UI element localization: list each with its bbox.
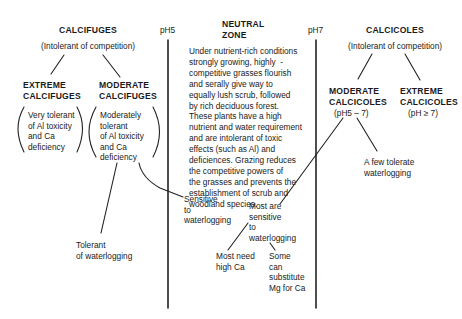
branch-to-sensitive-waterlogging (139, 163, 183, 197)
moderate-calcifuges-right-paren (153, 107, 160, 157)
most-need-high-ca-text: Most need high Ca (216, 251, 255, 272)
branch-to-moderate-calcicoles (358, 54, 372, 79)
neutral-zone-description: Under nutrient-rich conditions strongly … (189, 46, 302, 210)
tolerant-of-waterlogging-text: Tolerant of waterlogging (76, 240, 132, 261)
extreme-calcicoles-range: (pH ≥ 7) (408, 108, 438, 119)
branch-to-most-need-high-ca (228, 223, 248, 250)
calcicoles-title: CALCICOLES (345, 25, 445, 36)
few-tolerate-waterlogging-text: A few tolerate waterlogging (364, 157, 414, 178)
moderate-calcifuges-left-paren (89, 107, 96, 157)
ph7-label: pH7 (308, 25, 323, 36)
branch-to-moderate-calcifuges (103, 55, 120, 77)
most-sensitive-waterlogging-text: Most are sensitive to waterlogging (249, 201, 296, 243)
moderate-calcicoles-title-2: CALCICOLES (329, 97, 387, 108)
branch-to-few-tolerate (357, 118, 377, 151)
calcifuges-title: CALCIFUGES (38, 25, 138, 36)
extreme-calcifuges-description: Very tolerant of Al toxicity and Ca defi… (28, 110, 75, 152)
moderate-calcicoles-title-1: MODERATE (329, 86, 379, 97)
moderate-calcifuges-title-2: CALCIFUGES (99, 91, 157, 102)
extreme-calcicoles-title-2: CALCICOLES (400, 97, 458, 108)
extreme-calcifuges-title-2: CALCIFUGES (23, 91, 81, 102)
branch-to-extreme-calcifuges (51, 55, 64, 74)
calcicoles-subtitle: (Intolerant of competition) (340, 41, 450, 52)
branch-to-extreme-calcicoles (405, 54, 420, 80)
calcifuges-subtitle: (Intolerant of competition) (33, 41, 143, 52)
branch-to-tolerant-waterlogging (101, 163, 117, 233)
branch-to-some-substitute-mg (270, 243, 275, 250)
ph5-label: pH5 (160, 25, 175, 36)
some-substitute-mg-text: Some can substitute Mg for Ca (269, 251, 305, 293)
moderate-calcifuges-title-1: MODERATE (99, 80, 149, 91)
neutral-zone-title-2: ZONE (222, 30, 247, 41)
moderate-calcicoles-range: (pH5 – 7) (334, 108, 369, 119)
extreme-calcifuges-title-1: EXTREME (23, 80, 66, 91)
extreme-calcifuges-left-paren (18, 107, 24, 152)
extreme-calcicoles-title-1: EXTREME (400, 86, 443, 97)
moderate-calcifuges-description: Moderately tolerant of Al toxicity and C… (100, 110, 144, 163)
extreme-calcifuges-right-paren (77, 107, 83, 152)
neutral-zone-title-1: NEUTRAL (222, 19, 264, 30)
